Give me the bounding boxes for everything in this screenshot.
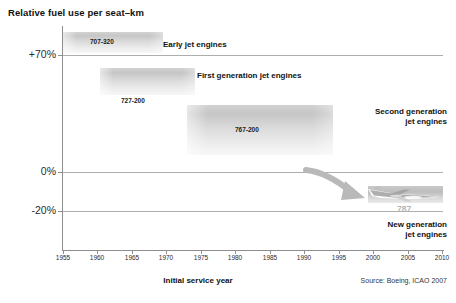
bar-label-707-320: 707-320 (90, 38, 114, 45)
gridline-minus20 (63, 211, 443, 212)
fuel-use-chart: Relative fuel use per seat–km 707-320 72… (0, 0, 456, 303)
plot-area: 707-320 727-200 767-200 787 (63, 26, 443, 250)
chart-title: Relative fuel use per seat–km (8, 7, 144, 18)
x-tick-label-1980: 1980 (220, 254, 250, 261)
x-tick-label-1970: 1970 (151, 254, 181, 261)
x-tick-label-2010: 2010 (427, 254, 456, 261)
gridline-70 (63, 55, 443, 56)
y-tick-label-0: 0% (8, 165, 56, 177)
bar-label-787: 787 (397, 204, 411, 214)
source-note: Source: Boeing, ICAO 2007 (361, 277, 447, 284)
y-tick-label-minus20: -20% (8, 204, 56, 216)
x-tick-label-1975: 1975 (186, 254, 216, 261)
y-tick-mark-minus20 (58, 211, 63, 212)
x-axis-title: Initial service year (0, 276, 396, 285)
x-tick-label-1955: 1955 (48, 254, 78, 261)
x-tick-label-1960: 1960 (82, 254, 112, 261)
gridline-0 (63, 172, 443, 173)
y-tick-mark-0 (58, 172, 63, 173)
bar-767-200 (187, 105, 333, 155)
x-tick-label-1990: 1990 (289, 254, 319, 261)
bar-label-727-200: 727-200 (121, 97, 145, 104)
bar-787 (368, 186, 443, 203)
y-tick-mark-70 (58, 55, 63, 56)
y-tick-label-70: +70% (8, 48, 56, 60)
annotation-first-generation-jet-engines: First generation jet engines (197, 71, 301, 81)
bar-label-767-200: 767-200 (235, 126, 259, 133)
annotation-early-jet-engines: Early jet engines (163, 40, 227, 50)
x-tick-label-1965: 1965 (117, 254, 147, 261)
bar-727-200 (100, 68, 195, 95)
y-axis-line (62, 26, 63, 251)
x-axis-line (62, 250, 444, 251)
x-tick-label-2000: 2000 (358, 254, 388, 261)
annotation-new-generation-jet-engines: New generation jet engines (327, 220, 447, 240)
annotation-second-generation-jet-engines: Second generation jet engines (327, 107, 447, 127)
x-tick-label-2005: 2005 (393, 254, 423, 261)
x-tick-label-1995: 1995 (324, 254, 354, 261)
x-tick-label-1985: 1985 (255, 254, 285, 261)
